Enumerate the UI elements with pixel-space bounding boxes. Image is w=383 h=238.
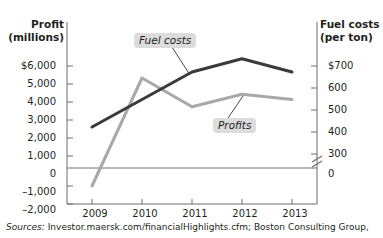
source-note-lead: Sources: bbox=[6, 222, 45, 232]
x-axis-ticks bbox=[92, 199, 292, 204]
series-line-fuel-costs bbox=[92, 59, 292, 127]
source-note: Sources: Investor.maersk.com/financialHi… bbox=[6, 222, 381, 232]
callout-label-profits: Profits bbox=[213, 118, 256, 133]
chart-figure: Profit(millions) Fuel costs(per ton) $6,… bbox=[0, 0, 383, 238]
series-line-profits bbox=[92, 78, 292, 186]
right-axis-ticks bbox=[311, 66, 317, 154]
callout-leader-fuel-costs bbox=[172, 47, 190, 75]
callout-label-fuel-costs: Fuel costs bbox=[134, 33, 196, 48]
callout-leader-profits bbox=[228, 96, 243, 118]
left-axis-ticks bbox=[67, 66, 73, 204]
source-note-text: Investor.maersk.com/financialHighlights.… bbox=[45, 222, 369, 232]
